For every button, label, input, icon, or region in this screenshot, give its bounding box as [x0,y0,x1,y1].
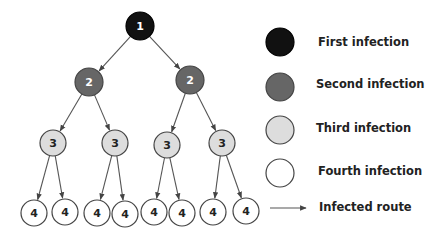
infection-route-arrow [99,36,130,71]
legend-label-third: Third infection [316,121,411,135]
svg-text:3: 3 [218,137,226,150]
svg-text:4: 4 [61,206,69,219]
infection-route-arrow [60,94,82,131]
legend-label-first: First infection [318,35,409,49]
infection-route-arrow [170,158,179,200]
infection-route-arrow [196,92,215,130]
legend-shapes [266,28,306,208]
infection-route-arrow [215,156,221,198]
svg-text:3: 3 [111,137,119,150]
svg-text:4: 4 [121,208,129,221]
infection-node-level-4: 4 [200,199,226,225]
infection-node-level-3: 3 [40,130,66,156]
infection-route-arrow [226,155,241,198]
svg-text:4: 4 [30,207,38,220]
infection-route-arrow [172,93,186,132]
svg-text:2: 2 [85,76,93,89]
svg-text:4: 4 [150,206,158,219]
svg-text:3: 3 [49,137,57,150]
legend-swatch-third [266,116,294,144]
infection-node-level-4: 4 [112,201,138,227]
infection-route-arrow [94,95,109,130]
infection-node-level-4: 4 [233,198,259,224]
svg-text:4: 4 [242,205,250,218]
infection-node-level-3: 3 [154,132,180,158]
legend-swatch-fourth [266,159,294,187]
infection-route-arrow [117,156,123,200]
infection-node-level-2: 2 [75,68,103,96]
svg-text:4: 4 [93,207,101,220]
svg-text:1: 1 [136,20,144,33]
infection-node-level-2: 2 [176,66,204,94]
infection-node-level-4: 4 [21,200,47,226]
infection-route-arrow [150,36,180,69]
legend-label-fourth: Fourth infection [318,164,422,178]
infection-node-level-1: 1 [126,12,154,40]
infection-route-arrow [100,156,111,200]
legend-swatch-first [266,28,294,56]
infection-route-arrow [55,156,62,198]
infection-route-arrow [157,158,165,198]
legend-label-route: Infected route [319,200,412,214]
infection-nodes: 122333344444444 [21,12,259,227]
svg-text:4: 4 [178,207,186,220]
infection-node-level-3: 3 [102,130,128,156]
infection-node-level-4: 4 [169,200,195,226]
infection-node-level-3: 3 [209,130,235,156]
infection-edges [38,36,242,200]
infection-node-level-4: 4 [141,199,167,225]
svg-text:2: 2 [186,74,194,87]
infection-route-arrow [38,156,50,200]
infection-node-level-4: 4 [52,199,78,225]
infection-node-level-4: 4 [84,200,110,226]
legend-label-second: Second infection [316,77,425,91]
legend-swatch-second [266,73,294,101]
svg-text:4: 4 [209,206,217,219]
svg-text:3: 3 [163,139,171,152]
